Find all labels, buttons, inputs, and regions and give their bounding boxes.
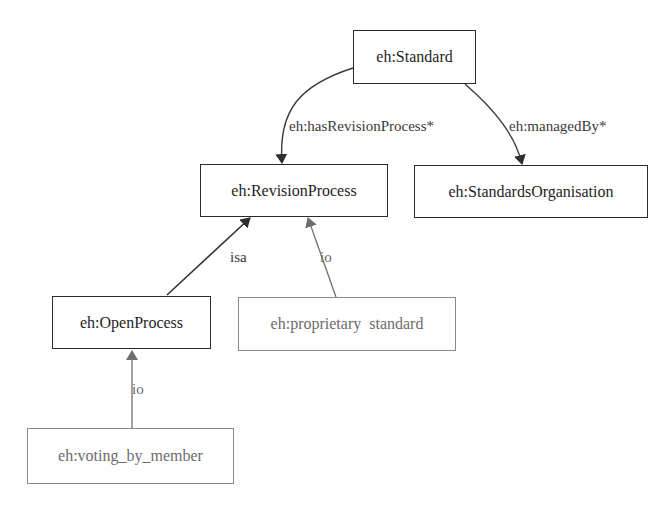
diagram-canvas: eh:Standard eh:RevisionProcess eh:Standa… [0, 0, 668, 512]
node-revision-process[interactable]: eh:RevisionProcess [200, 164, 388, 217]
node-standards-organisation[interactable]: eh:StandardsOrganisation [414, 165, 648, 218]
edge-label-io-voting: io [132, 381, 144, 398]
edge-label-io-proprietary: io [320, 249, 332, 266]
node-voting-by-member[interactable]: eh:voting_by_member [27, 428, 234, 484]
edge-label-isa: isa [230, 249, 247, 266]
node-open-process[interactable]: eh:OpenProcess [52, 296, 211, 349]
node-proprietary-standard[interactable]: eh:proprietary standard [238, 297, 456, 351]
edge-label-managed-by: eh:managedBy* [509, 118, 606, 135]
edge-label-has-revision-process: eh:hasRevisionProcess* [289, 118, 434, 135]
node-standard[interactable]: eh:Standard [353, 30, 476, 84]
edge-has-revision-process [282, 68, 353, 163]
